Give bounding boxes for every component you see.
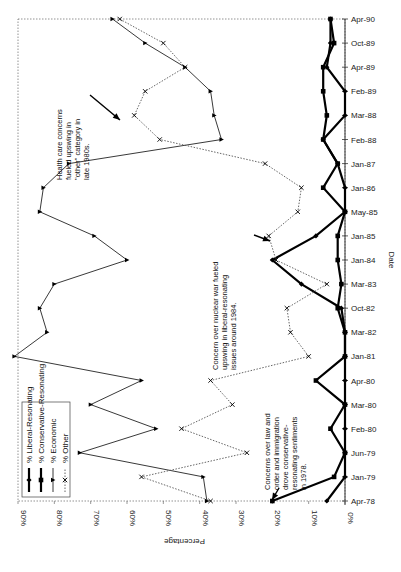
value-tick-label: 30% bbox=[237, 510, 246, 526]
date-tick-label: Apr-78 bbox=[351, 497, 376, 506]
percentage-axis-title: Percentage bbox=[163, 537, 204, 546]
date-tick-label: Jan-86 bbox=[351, 184, 376, 193]
date-tick-label: Oct-89 bbox=[351, 39, 376, 48]
arrow-nuclear-war bbox=[254, 235, 270, 241]
date-tick-label: May-85 bbox=[351, 208, 378, 217]
arrow-health-care bbox=[90, 95, 120, 120]
svg-text:in 1978.: in 1978. bbox=[299, 463, 308, 490]
value-tick-label: 50% bbox=[164, 510, 173, 526]
svg-text:order and immigration: order and immigration bbox=[272, 417, 281, 490]
date-tick-label: Feb-88 bbox=[351, 136, 377, 145]
legend-label: % Liberal-Resonating bbox=[25, 387, 34, 464]
date-tick-label: Mar-88 bbox=[351, 111, 377, 120]
value-tick-label: 80% bbox=[55, 510, 64, 526]
annotation-nuclear-war: Concern over nuclear war fueledupswing i… bbox=[211, 262, 238, 370]
value-tick-label: 20% bbox=[273, 510, 282, 526]
date-tick-label: Jan-87 bbox=[351, 160, 376, 169]
date-tick-label: Feb-80 bbox=[351, 425, 377, 434]
date-tick-label: Apr-90 bbox=[351, 15, 376, 24]
annotations: Concerns over law andorder and immigrati… bbox=[55, 95, 308, 500]
date-tick-label: Jan-79 bbox=[351, 473, 376, 482]
date-tick-label: Feb-89 bbox=[351, 87, 377, 96]
svg-text:late 1980s.: late 1980s. bbox=[82, 143, 91, 180]
svg-text:fueled upswing in: fueled upswing in bbox=[64, 122, 73, 180]
date-tick-label: Mar-82 bbox=[351, 328, 377, 337]
date-tick-label: Jan-81 bbox=[351, 352, 376, 361]
value-tick-label: 60% bbox=[128, 510, 137, 526]
line-chart: Apr-78Jan-79Jun-79Feb-80Mar-80Apr-80Jan-… bbox=[0, 0, 401, 572]
legend-label: % Other bbox=[61, 433, 70, 463]
annotation-law-order: Concerns over law andorder and immigrati… bbox=[263, 413, 308, 490]
date-tick-label: Jun-79 bbox=[351, 449, 376, 458]
date-tick-label: Apr-89 bbox=[351, 63, 376, 72]
date-tick-label: Oct-82 bbox=[351, 304, 376, 313]
svg-text:"other" category in: "other" category in bbox=[73, 119, 82, 180]
date-tick-label: Apr-80 bbox=[351, 377, 376, 386]
date-tick-label: Mar-80 bbox=[351, 401, 377, 410]
value-tick-label: 0% bbox=[346, 512, 355, 524]
date-axis-title: Date bbox=[387, 252, 396, 269]
svg-text:issues around 1984.: issues around 1984. bbox=[229, 302, 238, 370]
svg-text:Concern over nuclear war fuele: Concern over nuclear war fueled bbox=[211, 262, 220, 370]
svg-text:upswing in liberal-resonating: upswing in liberal-resonating bbox=[220, 275, 229, 370]
date-tick-label: Jan-84 bbox=[351, 256, 376, 265]
svg-text:Concerns over law and: Concerns over law and bbox=[263, 413, 272, 490]
date-tick-label: Jan-85 bbox=[351, 232, 376, 241]
legend: % Liberal-Resonating% Conservative-Reson… bbox=[22, 364, 70, 497]
date-tick-label: Mar-83 bbox=[351, 280, 377, 289]
svg-text:resonating sentiments: resonating sentiments bbox=[290, 416, 299, 490]
value-tick-label: 70% bbox=[92, 510, 101, 526]
value-tick-label: 90% bbox=[19, 510, 28, 526]
svg-text:drove conservative-: drove conservative- bbox=[281, 424, 290, 490]
svg-text:Health care concerns: Health care concerns bbox=[55, 109, 64, 180]
legend-label: % Conservative-Resonating bbox=[37, 364, 46, 463]
value-tick-label: 40% bbox=[201, 510, 210, 526]
annotation-health-care: Health care concernsfueled upswing in"ot… bbox=[55, 109, 91, 180]
value-tick-label: 10% bbox=[310, 510, 319, 526]
legend-label: % Economic bbox=[49, 419, 58, 463]
